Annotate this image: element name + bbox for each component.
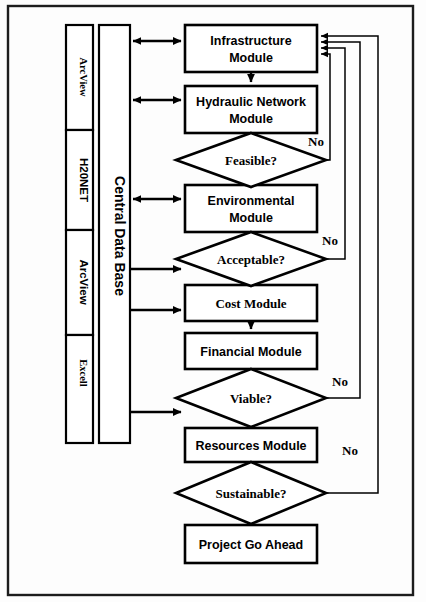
- feedback-no-label-acceptable: No: [322, 233, 338, 248]
- feedback-no-label-feasible: No: [308, 134, 324, 149]
- process-label-hydraulic-line2: Module: [229, 112, 273, 126]
- decision-feasible: Feasible?: [176, 133, 326, 187]
- process-label-infrastructure-line1: Infrastructure: [210, 34, 291, 48]
- process-label-cost: Cost Module: [215, 296, 286, 311]
- process-label-hydraulic-line1: Hydraulic Network: [196, 95, 306, 109]
- process-box-project-go-ahead: Project Go Ahead: [185, 525, 317, 563]
- feedback-acceptable-to-infrastructure: No: [321, 48, 345, 259]
- decision-label-feasible: Feasible?: [225, 153, 277, 168]
- process-label-resources: Resources Module: [195, 439, 306, 453]
- central-database: Central Data Base: [99, 25, 130, 443]
- software-label-h20net: H20NET: [78, 158, 90, 202]
- feedback-no-label-sustainable: No: [342, 443, 358, 458]
- decision-acceptable: Acceptable?: [176, 232, 326, 286]
- process-label-environmental-line1: Environmental: [208, 194, 295, 208]
- software-label-arcview-2: ArcView: [78, 259, 90, 304]
- process-label-financial: Financial Module: [200, 345, 301, 359]
- decision-viable: Viable?: [176, 369, 326, 427]
- process-box-financial: Financial Module: [185, 333, 317, 369]
- software-label-arcview-1: ArcView: [78, 57, 89, 96]
- process-label-infrastructure-line2: Module: [229, 51, 273, 65]
- feedback-viable-to-infrastructure: No: [321, 42, 360, 398]
- software-stack: ArcView H20NET ArcView Excell: [66, 25, 93, 443]
- process-box-infrastructure: Infrastructure Module: [185, 25, 317, 72]
- decision-sustainable: Sustainable?: [176, 462, 326, 524]
- decision-label-viable: Viable?: [230, 391, 272, 406]
- feedback-no-label-viable: No: [332, 374, 348, 389]
- process-box-hydraulic: Hydraulic Network Module: [185, 86, 317, 133]
- process-label-project-go-ahead: Project Go Ahead: [199, 538, 303, 552]
- flowchart-canvas: ArcView H20NET ArcView Excell Central Da…: [0, 0, 426, 602]
- decision-label-sustainable: Sustainable?: [216, 486, 287, 501]
- software-label-excell: Excell: [78, 359, 89, 386]
- process-box-cost: Cost Module: [185, 285, 317, 321]
- software-cell-excell: [66, 335, 93, 443]
- process-box-resources: Resources Module: [185, 428, 317, 462]
- central-database-label: Central Data Base: [112, 176, 128, 296]
- process-box-environmental: Environmental Module: [185, 185, 317, 232]
- process-label-environmental-line2: Module: [229, 211, 273, 225]
- decision-label-acceptable: Acceptable?: [217, 252, 285, 267]
